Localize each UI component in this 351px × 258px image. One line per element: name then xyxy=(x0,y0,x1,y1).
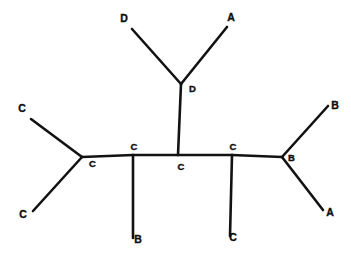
phylogenetic-tree-figure: DCCCCB DACCBCBA xyxy=(0,0,351,258)
tip-a-lower-right-label: A xyxy=(326,206,334,218)
canvas-background xyxy=(0,0,351,258)
node-c-center-label: C xyxy=(178,161,185,172)
tip-c-upper-left-label: C xyxy=(18,102,26,114)
tip-b-bottom-label: B xyxy=(134,233,142,245)
node-d-junction-label: D xyxy=(189,83,196,94)
tip-b-upper-right-label: B xyxy=(331,99,339,111)
tip-c-lower-left-label: C xyxy=(19,208,27,220)
node-c-left-label: C xyxy=(89,158,96,169)
tip-d-top-left-label: D xyxy=(120,12,128,24)
tree-canvas: DCCCCB DACCBCBA xyxy=(0,0,351,258)
node-b-right-label: B xyxy=(288,152,295,163)
tip-c-bottom-label: C xyxy=(229,231,237,243)
tip-a-top-right-label: A xyxy=(227,11,235,23)
node-c-second-label: C xyxy=(131,141,138,152)
node-c-fourth-label: C xyxy=(230,141,237,152)
